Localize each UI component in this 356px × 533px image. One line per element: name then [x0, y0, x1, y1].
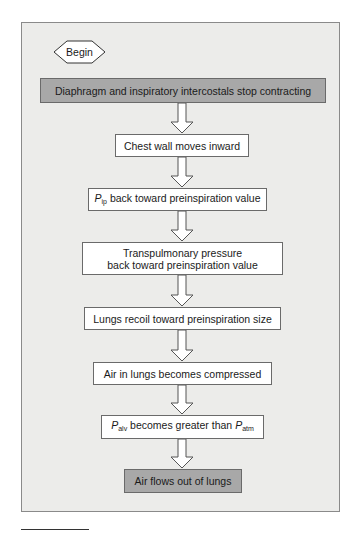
step-air-flows-out: Air flows out of lungs: [124, 469, 242, 493]
step-lungs-recoil: Lungs recoil toward preinspiration size: [84, 307, 281, 330]
step-text: Air flows out of lungs: [135, 475, 232, 487]
step-text: Lungs recoil toward preinspiration size: [93, 313, 272, 325]
step-air-compressed: Air in lungs becomes compressed: [93, 362, 272, 385]
step-pip: Pip back toward preinspiration value: [88, 188, 267, 211]
begin-label: Begin: [53, 40, 106, 64]
pressure-subscript: atm: [242, 425, 254, 432]
step-text: Air in lungs becomes compressed: [104, 368, 262, 380]
step-text: Pip back toward preinspiration value: [95, 192, 261, 208]
step-diaphragm-stop: Diaphragm and inspiratory intercostals s…: [40, 78, 326, 103]
down-arrow-icon: [170, 157, 194, 188]
step-text-rest: back toward preinspiration value: [107, 192, 261, 204]
down-arrow-icon: [170, 275, 194, 307]
step-text-mid: becomes greater than: [127, 419, 235, 431]
step-text-line2: back toward preinspiration value: [107, 259, 258, 271]
step-transpulmonary: Transpulmonary pressure back toward prei…: [82, 242, 283, 275]
step-text-line1: Transpulmonary pressure: [123, 247, 242, 259]
down-arrow-icon: [170, 211, 194, 242]
down-arrow-icon: [170, 385, 194, 415]
pressure-subscript: alv: [118, 425, 127, 432]
down-arrow-icon: [170, 439, 194, 469]
step-text: Palv becomes greater than Patm: [111, 419, 254, 435]
step-chest-wall: Chest wall moves inward: [115, 134, 249, 157]
pressure-symbol: P: [95, 192, 102, 204]
footnote-rule: [21, 529, 89, 530]
begin-node: Begin: [53, 40, 106, 64]
step-text: Chest wall moves inward: [124, 140, 240, 152]
down-arrow-icon: [170, 330, 194, 362]
step-text: Diaphragm and inspiratory intercostals s…: [55, 85, 311, 97]
step-palv-greater: Palv becomes greater than Patm: [101, 415, 264, 439]
down-arrow-icon: [170, 103, 194, 134]
